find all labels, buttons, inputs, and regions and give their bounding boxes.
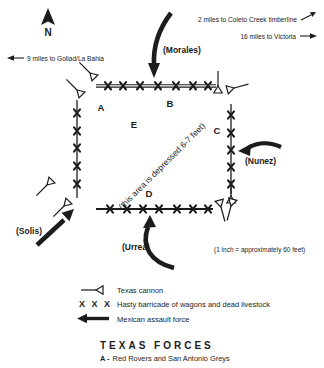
compass: N xyxy=(41,8,55,38)
northeast-arrow-icon xyxy=(310,12,316,17)
urrea-label: (Urrea) xyxy=(122,242,150,252)
west-arrow-icon xyxy=(7,55,14,60)
victoria-distance: 16 miles to Victoria xyxy=(240,33,317,40)
urrea-assault-arrow-icon xyxy=(146,227,174,268)
texas-cannon-icon xyxy=(33,177,54,198)
depression-note: (this area is depressed 6-7 feet) xyxy=(116,121,207,212)
barricade-west xyxy=(74,100,80,198)
scale-note: (1 inch = approximately 60 feet) xyxy=(214,246,305,254)
morales-assault: (Morales) xyxy=(148,13,201,78)
texas-forces-heading: TEXAS FORCES xyxy=(100,340,214,351)
north-arrow-icon xyxy=(41,8,55,25)
texas-cannon-icon xyxy=(76,59,97,80)
solis-assault: (Solis) xyxy=(16,209,74,245)
legend-barricade-label: Hasty barricade of wagons and dead lives… xyxy=(117,300,270,309)
goliad-distance-label: 9 miles to Goliad/La Bahia xyxy=(27,55,104,62)
barricade-symbol: X X X xyxy=(79,299,112,309)
morales-label: (Morales) xyxy=(163,45,201,55)
legend-cannon-label: Texas cannon xyxy=(117,286,163,295)
legend-assault-row: Mexican assault force xyxy=(77,314,190,324)
solis-label: (Solis) xyxy=(16,226,42,236)
legend-cannon-row: Texas cannon xyxy=(81,286,163,295)
legend: Texas cannon X X X Hasty barricade of wa… xyxy=(77,286,270,324)
texas-forces-entry-key: A - xyxy=(100,354,110,363)
legend-barricade-row: X X X Hasty barricade of wagons and dead… xyxy=(79,299,270,309)
position-label-d: D xyxy=(146,188,153,199)
goliad-distance: 9 miles to Goliad/La Bahia xyxy=(7,55,104,62)
position-label-c: C xyxy=(214,125,221,136)
texas-cannon-icon xyxy=(226,80,249,94)
nunez-assault: (Nunez) xyxy=(238,143,281,166)
nunez-label: (Nunez) xyxy=(245,156,276,166)
position-label-b: B xyxy=(167,98,174,109)
east-arrow-icon xyxy=(310,33,317,38)
victoria-distance-label: 16 miles to Victoria xyxy=(240,33,296,40)
barricade-east xyxy=(228,104,234,194)
texas-cannon-icon xyxy=(63,76,84,97)
urrea-assault: (Urrea) xyxy=(122,215,174,268)
position-label-a: A xyxy=(98,102,105,113)
texas-forces-entry-name: Red Rovers and San Antonio Greys xyxy=(113,354,230,363)
coleto-distance-label: 2 miles to Coleto Creek timberline xyxy=(198,16,297,23)
morales-assault-arrow-icon xyxy=(154,13,171,65)
compass-label: N xyxy=(44,27,51,38)
barricade-north xyxy=(96,82,216,89)
texas-cannon-icon xyxy=(81,286,103,294)
texas-cannon-icon xyxy=(223,198,237,221)
coleto-distance: 2 miles to Coleto Creek timberline xyxy=(198,12,316,23)
battle-map-page: N 9 miles to Goliad/La Bahia 2 miles to … xyxy=(0,0,324,368)
texas-cannon-icon xyxy=(214,71,222,93)
position-label-e: E xyxy=(131,119,137,130)
legend-assault-label: Mexican assault force xyxy=(117,315,190,324)
nunez-assault-arrow-icon xyxy=(248,143,281,148)
battle-map: N 9 miles to Goliad/La Bahia 2 miles to … xyxy=(0,0,324,368)
texas-forces-entry: A -Red Rovers and San Antonio Greys xyxy=(100,354,230,363)
barricade-south xyxy=(96,205,213,212)
